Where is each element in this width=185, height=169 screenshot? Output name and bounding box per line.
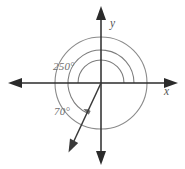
- angle-label-250: 250°: [53, 60, 75, 72]
- terminal-ray-line: [73, 83, 101, 143]
- angle-diagram-canvas: 250° 70° y x: [0, 0, 185, 169]
- x-axis-arrow-left: [8, 78, 22, 88]
- angle-diagram-figure: 250° 70° y x: [0, 0, 185, 169]
- terminal-ray-arrowhead: [69, 138, 79, 152]
- y-axis-arrow-top: [96, 6, 106, 20]
- angle-label-70: 70°: [54, 105, 70, 117]
- x-axis-label: x: [163, 85, 170, 97]
- y-axis-arrow-bottom: [96, 151, 106, 165]
- y-axis-label: y: [109, 17, 116, 30]
